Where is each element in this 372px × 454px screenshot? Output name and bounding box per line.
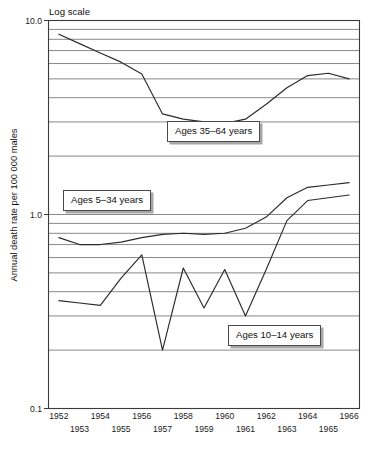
x-tick-label: 1959 <box>194 424 213 434</box>
x-tick-label: 1957 <box>153 424 172 434</box>
x-tick-label: 1954 <box>91 411 110 421</box>
callout-ages-5-34: Ages 5–34 years <box>63 190 151 211</box>
callout-ages-35-64: Ages 35–64 years <box>167 121 260 142</box>
y-axis-ticks: 10.01.00.1 <box>25 16 48 414</box>
y-tick-label: 10.0 <box>25 16 42 26</box>
callout-ages-10-14: Ages 10–14 years <box>228 325 321 346</box>
x-tick-label: 1960 <box>215 411 234 421</box>
x-tick-label: 1966 <box>340 411 359 421</box>
x-tick-label: 1956 <box>132 411 151 421</box>
x-tick-label: 1965 <box>319 424 338 434</box>
x-tick-label: 1964 <box>298 411 317 421</box>
x-axis-ticks: 1952195419561958196019621964196619531955… <box>49 411 359 434</box>
x-tick-label: 1963 <box>277 424 296 434</box>
y-tick-label: 0.1 <box>30 404 42 414</box>
x-tick-label: 1955 <box>112 424 131 434</box>
chart-figure: Log scale Annual death rate per 100 000 … <box>0 0 372 454</box>
y-tick-label: 1.0 <box>30 210 42 220</box>
x-tick-label: 1952 <box>49 411 68 421</box>
x-tick-label: 1961 <box>236 424 255 434</box>
x-tick-label: 1953 <box>70 424 89 434</box>
x-tick-label: 1958 <box>174 411 193 421</box>
x-tick-label: 1962 <box>257 411 276 421</box>
line-chart-plot: 10.01.00.1 19521954195619581960196219641… <box>0 0 372 454</box>
